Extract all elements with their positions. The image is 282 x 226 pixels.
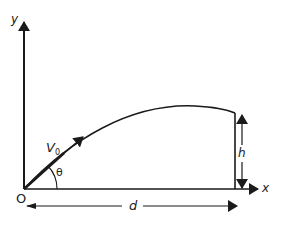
- velocity-label: V0: [46, 140, 60, 157]
- x-axis-label: x: [261, 181, 270, 195]
- projectile-diagram: y x O V0 θ h d: [0, 0, 282, 226]
- origin-label: O: [16, 191, 26, 206]
- angle-label: θ: [56, 166, 63, 179]
- distance-label: d: [129, 198, 138, 213]
- height-label: h: [238, 146, 246, 160]
- y-axis-label: y: [10, 12, 19, 26]
